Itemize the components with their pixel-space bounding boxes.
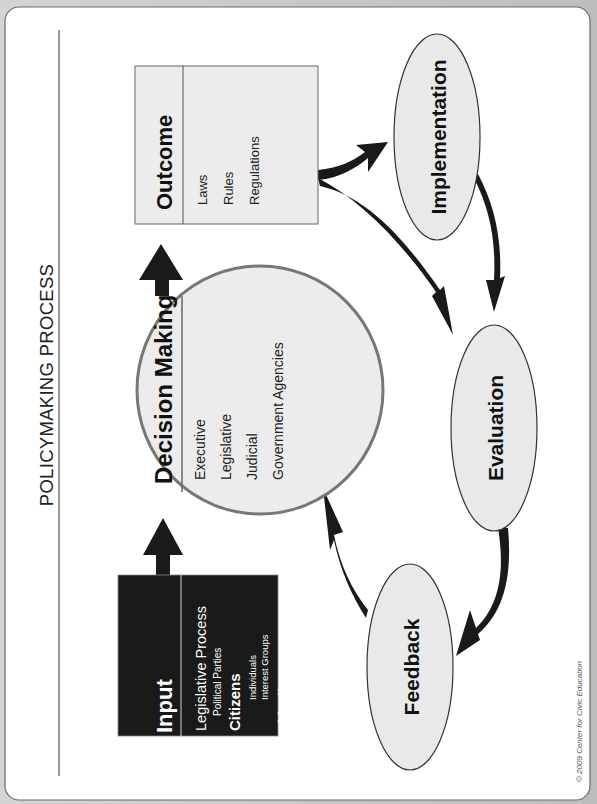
outcome-item: Laws: [195, 174, 210, 205]
decision-making-circle: Decision Making Executive Legislative Ju…: [137, 266, 383, 514]
input-heading: Input: [152, 679, 177, 733]
input-item: Media: [276, 679, 293, 724]
copyright-text: © 2009 Center for Civic Education: [575, 660, 584, 782]
decision-heading: Decision Making: [150, 295, 177, 484]
page-title: POLICYMAKING PROCESS: [36, 264, 57, 506]
evaluation-label: Evaluation: [484, 375, 507, 481]
input-subitem: Individuals: [247, 655, 258, 700]
feedback-ellipse: Feedback: [367, 564, 453, 770]
input-box: Input Legislative Process Political Part…: [118, 575, 293, 736]
input-item: Citizens: [226, 673, 243, 731]
outcome-heading: Outcome: [152, 115, 177, 210]
input-item: Legislative Process: [193, 606, 209, 731]
input-subitem: Interest Groups: [259, 634, 270, 700]
implementation-label: Implementation: [427, 59, 450, 214]
evaluation-ellipse: Evaluation: [451, 325, 537, 531]
implementation-ellipse: Implementation: [394, 34, 480, 240]
outcome-box: Outcome Laws Rules Regulations: [135, 66, 318, 224]
decision-item: Government Agencies: [270, 342, 286, 480]
decision-item: Judicial: [244, 433, 260, 480]
feedback-label: Feedback: [400, 618, 423, 715]
outcome-item: Rules: [221, 171, 236, 205]
outcome-item: Regulations: [247, 136, 262, 205]
decision-item: Legislative: [218, 414, 234, 480]
input-subitem: Political Parties: [212, 648, 223, 716]
policymaking-diagram: POLICYMAKING PROCESS Input Legislative P…: [0, 0, 597, 804]
decision-item: Executive: [192, 419, 208, 480]
